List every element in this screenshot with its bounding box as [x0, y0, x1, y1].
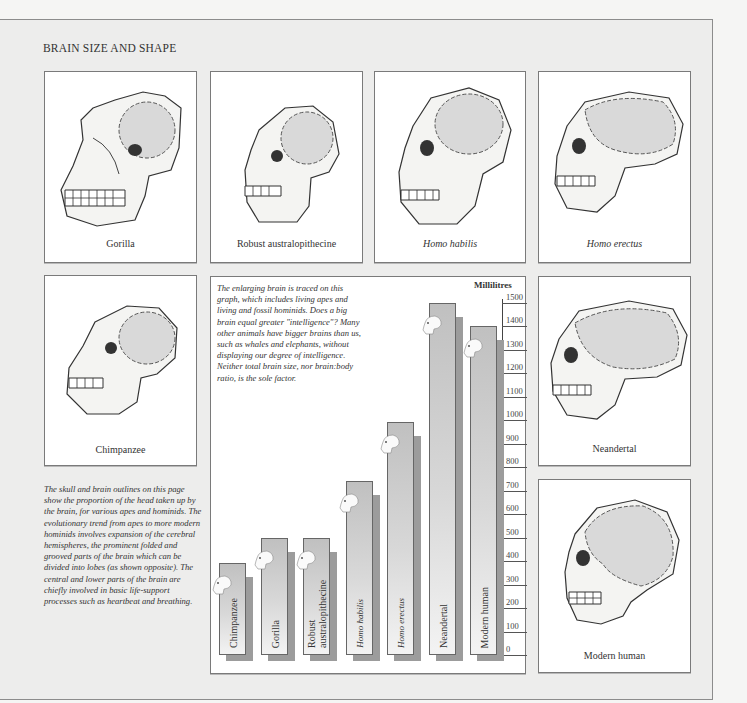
panel-robust-australopithecine: Robust australopithecine [210, 71, 363, 263]
panel-caption: Chimpanzee [45, 444, 196, 455]
homo-erectus-skull-icon [545, 80, 687, 220]
chimpanzee-skull-icon [57, 288, 187, 418]
bar-label: Neandertal [437, 604, 448, 648]
modern-human-skull-icon [551, 494, 681, 628]
mini-skull-icon [211, 575, 233, 595]
y-tick-label: 0 [506, 644, 510, 654]
y-tick [502, 561, 527, 562]
panel-caption: Homo erectus [539, 238, 690, 249]
mini-skull-icon [253, 550, 275, 570]
y-tick-label: 1200 [506, 362, 523, 372]
bar-neandertal: Neandertal [429, 303, 456, 656]
y-tick-label: 1000 [506, 409, 523, 419]
y-tick [502, 373, 527, 374]
panel-caption: Gorilla [45, 238, 196, 249]
y-tick-label: 800 [506, 456, 519, 466]
bar-homo-erectus: Homo erectus [387, 422, 414, 655]
robust-australopithecine-skull-icon [229, 90, 347, 226]
y-tick [502, 538, 527, 539]
gorilla-skull-icon [53, 78, 191, 228]
y-tick [502, 632, 527, 633]
y-tick [502, 608, 527, 609]
skull-outline-note: The skull and brain outlines on this pag… [44, 484, 204, 607]
y-tick [502, 655, 527, 656]
mini-skull-icon [462, 338, 484, 358]
y-tick [502, 350, 527, 351]
page-title: BRAIN SIZE AND SHAPE [43, 42, 176, 54]
y-tick [502, 326, 527, 327]
y-tick-label: 1300 [506, 339, 523, 349]
panel-homo-habilis: Homo habilis [374, 71, 526, 263]
y-tick-label: 900 [506, 433, 519, 443]
bar-label: Gorilla [269, 620, 280, 648]
y-tick [502, 397, 527, 398]
y-tick [502, 514, 527, 515]
y-tick-label: 1500 [506, 292, 523, 302]
panel-modern-human: Modern human [538, 479, 691, 673]
y-tick-label: 700 [506, 480, 519, 490]
y-tick-label: 600 [506, 503, 519, 513]
panel-caption: Robust australopithecine [211, 238, 362, 249]
panel-caption: Homo habilis [375, 238, 525, 249]
y-tick [502, 491, 527, 492]
bar-label: Homo erectus [395, 598, 406, 648]
y-tick-label: 1400 [506, 315, 523, 325]
y-tick [502, 303, 527, 304]
y-tick-label: 500 [506, 527, 519, 537]
mini-skull-icon [379, 434, 401, 454]
y-tick [502, 444, 527, 445]
y-tick-label: 1100 [506, 386, 523, 396]
panel-caption: Modern human [539, 650, 690, 661]
homo-habilis-skull-icon [387, 78, 517, 228]
bar-label: Chimpanzee [227, 598, 238, 648]
mini-skull-icon [338, 493, 360, 513]
mini-skull-icon [295, 550, 317, 570]
brain-size-graph-panel: The enlarging brain is traced on this gr… [210, 276, 526, 674]
y-tick-label: 200 [506, 597, 519, 607]
y-tick [502, 467, 527, 468]
y-axis-label: Millilitres [474, 280, 512, 290]
panel-caption: Neandertal [539, 443, 690, 454]
bar-label: Robust australopithecine [306, 558, 328, 648]
y-tick [502, 585, 527, 586]
panel-homo-erectus: Homo erectus [538, 71, 691, 263]
mini-skull-icon [421, 315, 443, 335]
y-tick-label: 400 [506, 550, 519, 560]
y-tick-label: 300 [506, 574, 519, 584]
y-tick-label: 100 [506, 621, 519, 631]
panel-chimpanzee: Chimpanzee [44, 275, 197, 466]
bar-label: Homo habilis [354, 599, 365, 648]
panel-gorilla: Gorilla [44, 71, 197, 263]
y-tick [502, 420, 527, 421]
bar-modern-human: Modern human [470, 326, 497, 655]
bar-label: Modern human [478, 587, 489, 648]
graph-note: The enlarging brain is traced on this gr… [217, 283, 367, 384]
panel-neandertal: Neandertal [538, 276, 691, 466]
neandertal-skull-icon [543, 295, 689, 423]
